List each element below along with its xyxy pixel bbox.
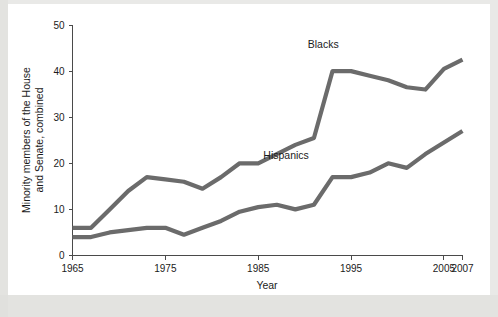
x-axis-ticks xyxy=(73,256,463,260)
series-label-hispanics: Hispanics xyxy=(263,149,309,161)
line-chart: 01020304050 196519751985199520052007 Bla… xyxy=(8,4,490,295)
y-tick-label: 30 xyxy=(53,112,65,123)
chart-figure: 01020304050 196519751985199520052007 Bla… xyxy=(0,0,498,317)
page-edge-artifact-left xyxy=(0,0,8,317)
x-tick-label: 1965 xyxy=(61,263,84,274)
page-edge-artifact-bottom xyxy=(0,295,498,317)
y-tick-label: 40 xyxy=(53,66,65,77)
series-line-blacks xyxy=(73,60,463,228)
x-axis: 196519751985199520052007 xyxy=(61,256,474,274)
x-axis-title: Year xyxy=(256,279,278,291)
series-line-hispanics xyxy=(73,131,463,237)
series-label-blacks: Blacks xyxy=(308,38,339,50)
x-tick-label: 2007 xyxy=(451,263,474,274)
x-tick-label: 1995 xyxy=(340,263,363,274)
x-axis-tick-labels: 196519751985199520052007 xyxy=(61,263,474,274)
chart-plot-card: 01020304050 196519751985199520052007 Bla… xyxy=(8,4,490,295)
y-axis-title-line1: Minority members of the House xyxy=(20,67,32,213)
y-tick-label: 20 xyxy=(53,158,65,169)
y-tick-label: 10 xyxy=(53,204,65,215)
y-axis-tick-labels: 01020304050 xyxy=(53,20,65,262)
x-tick-label: 1985 xyxy=(247,263,270,274)
x-tick-label: 1975 xyxy=(154,263,177,274)
y-axis-ticks xyxy=(69,25,73,256)
y-axis-title-line2: and Senate, combined xyxy=(33,87,45,192)
y-axis: 01020304050 xyxy=(53,20,72,262)
y-tick-label: 50 xyxy=(53,20,65,31)
y-tick-label: 0 xyxy=(59,250,65,261)
